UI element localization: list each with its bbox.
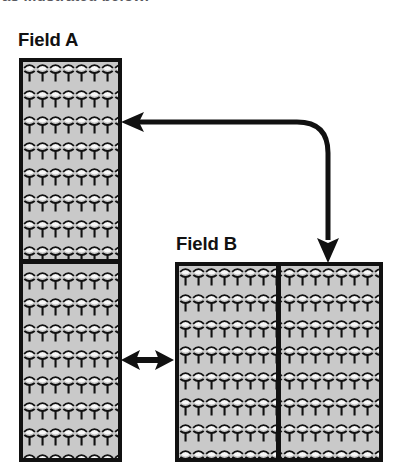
exchange-arrow-head-right bbox=[155, 350, 174, 370]
top-caption-text: as illustrated below. bbox=[2, 0, 149, 4]
field-a-horizontal-divider bbox=[19, 259, 122, 264]
exchange-arrow-head-left bbox=[121, 350, 140, 370]
figure-canvas: as illustrated below. Field A Field B bbox=[0, 0, 395, 473]
field-b-label: Field B bbox=[176, 233, 237, 255]
rotation-arrow-head-down bbox=[317, 238, 339, 263]
rotation-arrow-shaft bbox=[139, 122, 328, 240]
field-b-vertical-divider bbox=[276, 262, 281, 462]
field-a-label: Field A bbox=[18, 29, 78, 51]
top-caption-clip: as illustrated below. bbox=[0, 0, 250, 5]
rotation-arrow-head-left bbox=[121, 112, 144, 132]
exchange-arrow bbox=[121, 350, 174, 370]
